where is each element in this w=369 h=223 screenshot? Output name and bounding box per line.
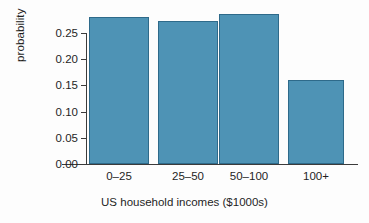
y-tick-label-4: 0.20 (38, 54, 78, 65)
y-tick-mark-2 (81, 112, 86, 113)
y-tick-mark-4 (81, 59, 86, 60)
bar-0-25 (89, 17, 149, 164)
x-tick-label-1: 25–50 (158, 170, 218, 183)
bar-50-100 (219, 14, 279, 164)
x-axis-line (62, 164, 358, 165)
x-axis-title: US household incomes ($1000s) (0, 196, 369, 208)
y-tick-label-5: 0.25 (38, 28, 78, 39)
y-axis-title: probability (14, 0, 30, 62)
y-tick-label-0: 0.00 (38, 159, 78, 170)
y-tick-mark-3 (81, 85, 86, 86)
y-tick-label-1: 0.05 (38, 133, 78, 144)
y-axis-line (86, 33, 87, 165)
x-tick-label-3: 100+ (288, 170, 344, 183)
bar-25-50 (158, 21, 218, 164)
bar-chart-figure: probability 0.00 0.05 0.10 0.15 0.20 0.2… (0, 0, 369, 223)
y-tick-mark-5 (81, 33, 86, 34)
y-tick-label-2: 0.10 (38, 107, 78, 118)
x-tick-label-0: 0–25 (89, 170, 149, 183)
bar-100-plus (288, 80, 344, 164)
y-tick-mark-1 (81, 138, 86, 139)
y-tick-label-3: 0.15 (38, 80, 78, 91)
y-tick-mark-0 (81, 164, 86, 165)
x-tick-label-2: 50–100 (219, 170, 279, 183)
